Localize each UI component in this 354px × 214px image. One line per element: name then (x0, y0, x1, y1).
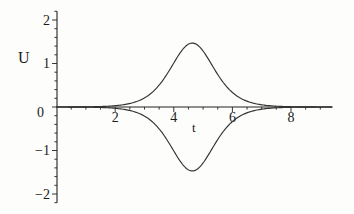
upper-pulse-curve (57, 43, 332, 107)
y-tick-label-1: 1 (43, 56, 50, 71)
plot-figure: 2468−2−1012 U t (0, 0, 354, 214)
line-chart: 2468−2−1012 (0, 0, 354, 214)
y-tick-label-0: 0 (37, 105, 44, 120)
y-axis-label: U (18, 50, 30, 66)
y-tick-label--1: −1 (35, 143, 50, 158)
x-tick-label-2: 2 (112, 110, 119, 125)
x-tick-label-6: 6 (229, 110, 236, 125)
y-tick-label-2: 2 (43, 13, 50, 28)
y-tick-label--2: −2 (35, 187, 50, 202)
x-axis-label: t (192, 121, 196, 134)
x-tick-label-4: 4 (170, 110, 177, 125)
x-tick-label-8: 8 (288, 110, 295, 125)
